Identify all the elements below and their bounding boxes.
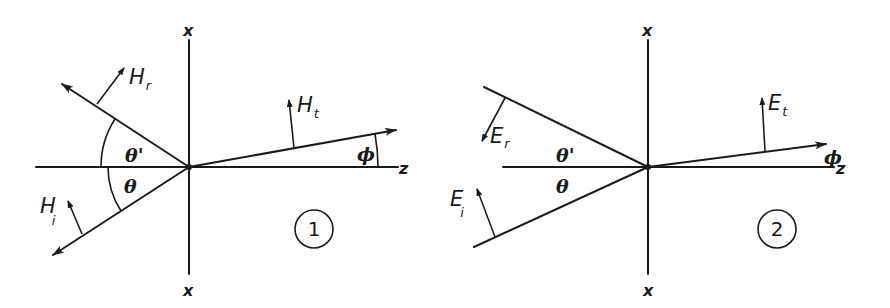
origin-2 (645, 164, 651, 170)
theta-prime-label-1: θ' (125, 144, 144, 166)
phi-arc-1 (375, 134, 378, 167)
diagram-1: x x z Hr Hi Ht θ' θ ϕ 1 (36, 21, 409, 300)
figure-number-2: 2 (771, 217, 784, 241)
x-axis-label-top-2: x (641, 21, 653, 40)
theta-arc-1 (108, 167, 121, 211)
phi-label-1: ϕ (357, 143, 375, 165)
origin-1 (186, 164, 192, 170)
h-reflected-label: Hr (129, 65, 153, 93)
x-axis-label-top-1: x (182, 21, 194, 40)
theta-label-2: θ (556, 175, 569, 197)
diagram-2: x x z Er Ei Et θ' θ ϕ 2 (450, 21, 846, 300)
theta-label-1: θ (124, 175, 137, 197)
z-axis-label-1: z (398, 159, 409, 178)
phi-label-2: ϕ (824, 146, 842, 168)
h-incident-arrow (68, 201, 82, 234)
theta-prime-label-2: θ' (556, 144, 575, 166)
theta-prime-arc-1 (101, 119, 115, 167)
transmitted-ray-2 (648, 144, 826, 167)
e-reflected-label: Er (490, 124, 511, 151)
e-incident-label: Ei (450, 187, 464, 220)
x-axis-label-bottom-1: x (182, 281, 194, 300)
e-incident-arrow (477, 189, 495, 237)
h-transmitted-label: Ht (297, 93, 320, 121)
h-reflected-arrow (97, 68, 124, 104)
h-transmitted-arrow (289, 100, 294, 148)
e-transmitted-label: Et (768, 91, 788, 119)
figure-number-1: 1 (308, 217, 321, 241)
x-axis-label-bottom-2: x (642, 281, 654, 300)
h-incident-label: Hi (40, 194, 56, 228)
e-transmitted-arrow (762, 98, 765, 151)
diagram-canvas: x x z Hr Hi Ht θ' θ ϕ 1 x x z (0, 0, 890, 308)
